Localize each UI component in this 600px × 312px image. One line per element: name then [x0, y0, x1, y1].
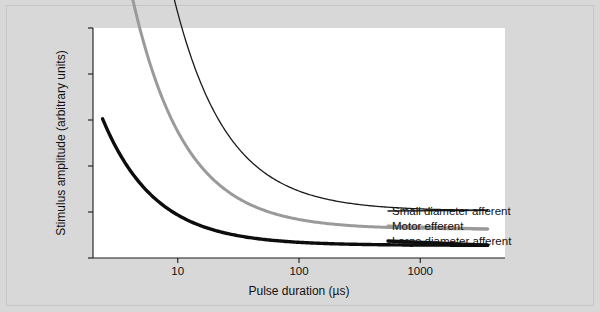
x-tick-label-1000: 1000: [380, 265, 460, 277]
x-tick-label-10: 10: [138, 265, 218, 277]
y-axis-ticks: [88, 28, 93, 258]
y-axis-title: Stimulus amplitude (arbitrary units): [54, 50, 68, 235]
x-axis-ticks: [178, 258, 420, 263]
x-tick-label-100: 100: [259, 265, 339, 277]
figure-container: 10 100 1000 Pulse duration (µs) Stimulus…: [0, 0, 600, 312]
y-axis-title-wrap: Stimulus amplitude (arbitrary units): [52, 28, 70, 258]
x-axis-title: Pulse duration (µs): [33, 284, 565, 298]
series-label-small-diameter-afferent: Small diameter afferent: [392, 205, 511, 217]
curve-small-diameter-afferent: [131, 0, 488, 210]
series-label-large-diameter-afferent: Large diameter afferent: [392, 235, 511, 247]
series-label-motor-efferent: Motor efferent: [392, 220, 463, 232]
curve-motor-efferent: [116, 0, 488, 229]
